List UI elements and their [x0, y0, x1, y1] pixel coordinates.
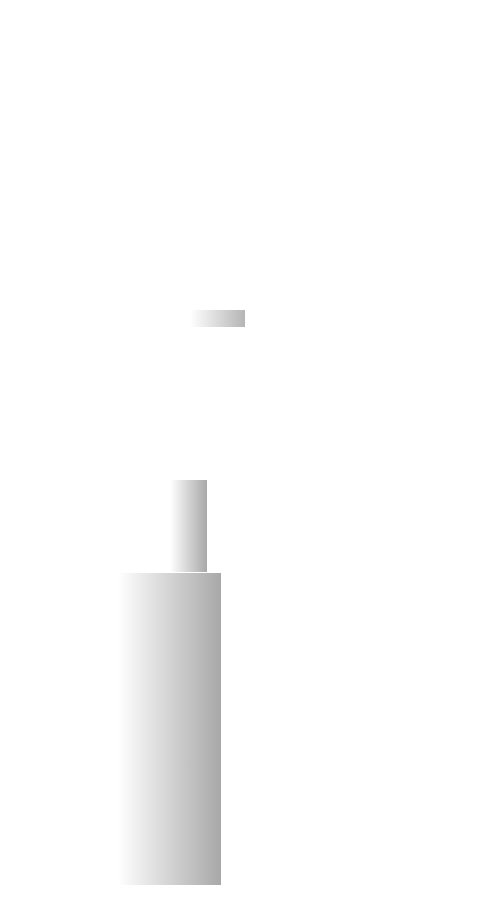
- dendrobates-clade-shade: [118, 573, 221, 885]
- ameerega-clade-shade: [170, 480, 207, 572]
- phylogenetic-tree: [0, 0, 497, 900]
- hyloxalus-branch-shade: [190, 310, 245, 327]
